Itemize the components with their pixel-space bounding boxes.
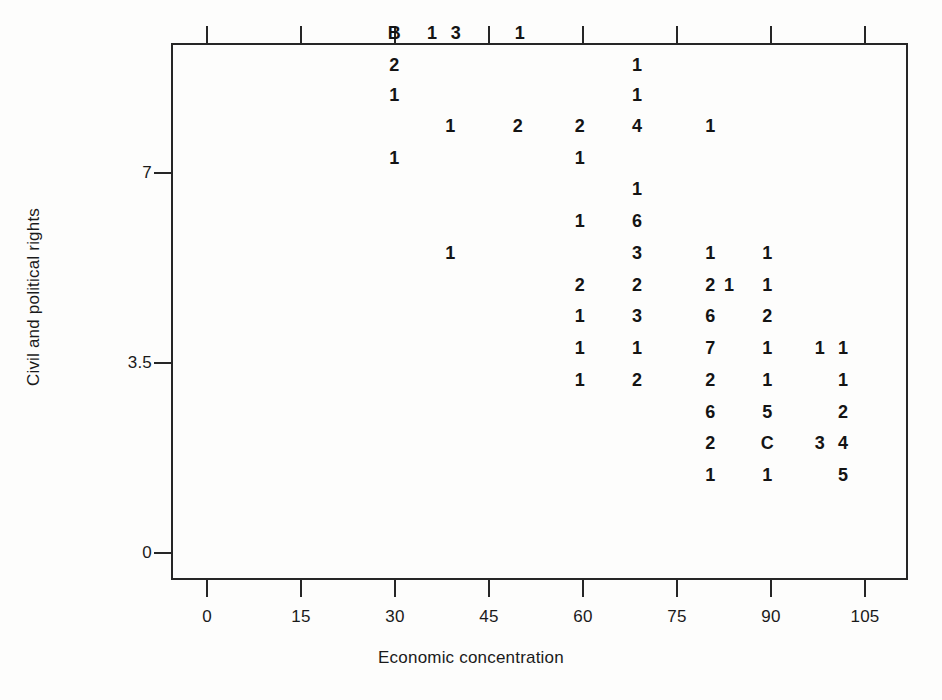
plot-frame bbox=[171, 43, 908, 580]
data-glyph: 1 bbox=[838, 371, 848, 389]
x-tick-bottom-90 bbox=[770, 580, 773, 597]
data-glyph: 1 bbox=[575, 149, 585, 167]
data-glyph: 1 bbox=[632, 339, 642, 357]
x-tick-top-45 bbox=[488, 26, 491, 43]
data-glyph: 1 bbox=[632, 56, 642, 74]
x-tick-label-45: 45 bbox=[479, 607, 498, 627]
data-glyph: 2 bbox=[705, 434, 715, 452]
x-tick-label-90: 90 bbox=[761, 607, 780, 627]
x-tick-bottom-60 bbox=[582, 580, 585, 597]
x-tick-top-75 bbox=[676, 26, 679, 43]
data-glyph: 5 bbox=[762, 403, 772, 421]
data-glyph: 1 bbox=[705, 244, 715, 262]
data-glyph: 2 bbox=[632, 276, 642, 294]
data-glyph: 2 bbox=[513, 117, 523, 135]
y-tick-label-3.5: 3.5 bbox=[128, 353, 152, 373]
x-tick-label-0: 0 bbox=[202, 607, 212, 627]
data-glyph: 1 bbox=[389, 149, 399, 167]
y-tick-0 bbox=[154, 552, 171, 555]
data-glyph: 3 bbox=[451, 24, 461, 42]
x-tick-bottom-45 bbox=[488, 580, 491, 597]
data-glyph: 1 bbox=[575, 371, 585, 389]
data-glyph: 1 bbox=[762, 339, 772, 357]
x-tick-label-75: 75 bbox=[667, 607, 686, 627]
data-glyph: 1 bbox=[389, 86, 399, 104]
y-axis-title: Civil and political rights bbox=[24, 157, 44, 437]
data-glyph: 1 bbox=[632, 180, 642, 198]
data-glyph: 1 bbox=[445, 117, 455, 135]
data-glyph: 2 bbox=[632, 371, 642, 389]
data-glyph: 1 bbox=[762, 466, 772, 484]
data-glyph: 6 bbox=[705, 307, 715, 325]
x-axis-title: Economic concentration bbox=[0, 648, 942, 668]
x-tick-top-0 bbox=[206, 26, 209, 43]
data-glyph: 2 bbox=[575, 117, 585, 135]
data-glyph: 3 bbox=[815, 434, 825, 452]
chart-figure: 015304560759010503.5710.5B13121111224111… bbox=[0, 0, 942, 700]
y-tick-label-7: 7 bbox=[142, 163, 152, 183]
y-tick-7 bbox=[154, 172, 171, 175]
data-glyph: B bbox=[388, 24, 401, 42]
data-glyph: 1 bbox=[815, 339, 825, 357]
x-tick-bottom-30 bbox=[394, 580, 397, 597]
data-glyph: 1 bbox=[515, 24, 525, 42]
data-glyph: 1 bbox=[445, 244, 455, 262]
x-tick-bottom-105 bbox=[864, 580, 867, 597]
data-glyph: 6 bbox=[632, 212, 642, 230]
data-glyph: 1 bbox=[705, 117, 715, 135]
x-tick-label-105: 105 bbox=[851, 607, 880, 627]
data-glyph: 6 bbox=[705, 403, 715, 421]
data-glyph: 1 bbox=[724, 276, 734, 294]
data-glyph: 4 bbox=[838, 434, 848, 452]
data-glyph: 2 bbox=[705, 371, 715, 389]
x-tick-top-90 bbox=[770, 26, 773, 43]
x-tick-label-15: 15 bbox=[291, 607, 310, 627]
data-glyph: 1 bbox=[705, 466, 715, 484]
data-glyph: 1 bbox=[838, 339, 848, 357]
data-glyph: 1 bbox=[762, 276, 772, 294]
x-tick-top-105 bbox=[864, 26, 867, 43]
data-glyph: 5 bbox=[838, 466, 848, 484]
data-glyph: 7 bbox=[705, 339, 715, 357]
x-tick-label-60: 60 bbox=[573, 607, 592, 627]
x-tick-bottom-75 bbox=[676, 580, 679, 597]
data-glyph: 4 bbox=[632, 117, 642, 135]
x-tick-bottom-0 bbox=[206, 580, 209, 597]
x-tick-top-15 bbox=[300, 26, 303, 43]
data-glyph: 1 bbox=[762, 371, 772, 389]
y-tick-3.5 bbox=[154, 362, 171, 365]
data-glyph: 2 bbox=[838, 403, 848, 421]
data-glyph: 1 bbox=[632, 86, 642, 104]
data-glyph: 1 bbox=[762, 244, 772, 262]
x-tick-bottom-15 bbox=[300, 580, 303, 597]
data-glyph: 1 bbox=[575, 307, 585, 325]
x-tick-label-30: 30 bbox=[385, 607, 404, 627]
y-tick-label-0: 0 bbox=[142, 543, 152, 563]
data-glyph: 3 bbox=[632, 244, 642, 262]
data-glyph: C bbox=[761, 434, 774, 452]
data-glyph: 2 bbox=[762, 307, 772, 325]
data-glyph: 1 bbox=[575, 212, 585, 230]
data-glyph: 3 bbox=[632, 307, 642, 325]
data-glyph: 1 bbox=[575, 339, 585, 357]
data-glyph: 2 bbox=[705, 276, 715, 294]
x-tick-top-60 bbox=[582, 26, 585, 43]
data-glyph: 2 bbox=[389, 56, 399, 74]
data-glyph: 2 bbox=[575, 276, 585, 294]
data-glyph: 1 bbox=[427, 24, 437, 42]
